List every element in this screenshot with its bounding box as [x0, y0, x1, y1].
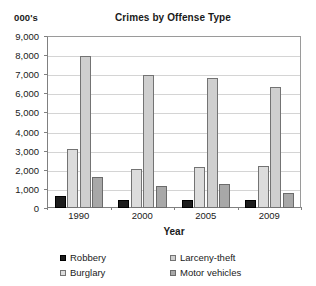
y-axis-tick-label: 3,000 [15, 145, 39, 156]
legend-label: Larceny-theft [180, 252, 235, 263]
plot-area [47, 36, 301, 208]
x-axis-tick-mark [238, 207, 239, 210]
y-axis-tick-label: 1,000 [15, 183, 39, 194]
y-axis-tick-label: 9,000 [15, 31, 39, 42]
legend-swatch-burglary-icon [60, 270, 66, 276]
gridline [48, 133, 300, 134]
gridline [48, 152, 300, 153]
gridline [48, 171, 300, 172]
y-axis: 9,0008,0007,0006,0005,0004,0003,0002,000… [0, 36, 43, 208]
legend-item-robbery: Robbery [60, 252, 170, 263]
y-axis-tick-label: 6,000 [15, 88, 39, 99]
legend: RobberyLarceny-theftBurglaryMotor vehicl… [60, 250, 300, 280]
x-axis-tick-mark [174, 207, 175, 210]
legend-swatch-larceny-icon [170, 255, 176, 261]
legend-item-burglary: Burglary [60, 267, 170, 278]
x-axis-title: Year [47, 226, 301, 237]
y-axis-tick-label: 2,000 [15, 164, 39, 175]
gridline [48, 75, 300, 76]
x-axis-tick-label: 2005 [195, 210, 216, 221]
legend-item-larceny: Larceny-theft [170, 252, 300, 263]
legend-label: Motor vehicles [180, 267, 241, 278]
legend-label: Robbery [70, 252, 106, 263]
x-axis: 1990200020052009 [47, 210, 301, 224]
gridline [48, 190, 300, 191]
x-axis-tick-label: 2009 [259, 210, 280, 221]
gridline [48, 94, 300, 95]
legend-label: Burglary [70, 267, 105, 278]
legend-item-motor: Motor vehicles [170, 267, 300, 278]
legend-swatch-robbery-icon [60, 255, 66, 261]
chart-title: Crimes by Offense Type [0, 12, 316, 23]
x-axis-tick-mark [301, 207, 302, 210]
chart-container: 000's Crimes by Offense Type 9,0008,0007… [0, 0, 316, 286]
y-axis-tick-label: 7,000 [15, 69, 39, 80]
gridlines [48, 37, 300, 207]
x-axis-tick-mark [111, 207, 112, 210]
y-axis-tick-label: 5,000 [15, 107, 39, 118]
x-axis-tick-label: 2000 [132, 210, 153, 221]
x-axis-tick-label: 1990 [68, 210, 89, 221]
x-axis-tick-mark [47, 207, 48, 210]
y-axis-tick-label: 8,000 [15, 50, 39, 61]
y-axis-tick-label: 0 [34, 203, 39, 214]
gridline [48, 56, 300, 57]
gridline [48, 113, 300, 114]
legend-swatch-motor-icon [170, 270, 176, 276]
y-axis-tick-label: 4,000 [15, 126, 39, 137]
